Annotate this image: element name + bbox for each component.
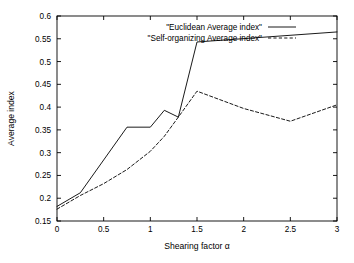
x-axis-title: Shearing factor α xyxy=(164,241,230,251)
line-chart: 00.511.522.53 0.150.20.250.30.350.40.450… xyxy=(0,0,354,263)
y-tick-label: 0.45 xyxy=(35,80,51,89)
plot-border xyxy=(57,16,337,221)
chart-legend: "Euclidean Average index""Self-organizin… xyxy=(148,23,296,43)
plot-frame xyxy=(57,16,337,221)
x-tick-label: 3 xyxy=(335,225,340,234)
x-tick-label: 1 xyxy=(148,225,153,234)
y-tick-label: 0.5 xyxy=(40,58,52,67)
y-axis-title: Average index xyxy=(6,90,16,145)
y-tick-label: 0.6 xyxy=(40,12,52,21)
x-tick-label: 0 xyxy=(55,225,60,234)
x-tick-label: 1.5 xyxy=(191,225,203,234)
y-tick-label: 0.35 xyxy=(35,126,51,135)
legend-label-0: "Euclidean Average index" xyxy=(166,23,262,32)
y-tick-label: 0.3 xyxy=(40,149,52,158)
x-tick-label: 2.5 xyxy=(285,225,297,234)
y-tick-label: 0.55 xyxy=(35,35,51,44)
data-series-group xyxy=(57,32,337,209)
y-tick-label: 0.15 xyxy=(35,217,51,226)
x-tick-label: 0.5 xyxy=(98,225,110,234)
y-tick-label: 0.25 xyxy=(35,171,51,180)
x-axis-ticks: 00.511.522.53 xyxy=(55,16,340,234)
series-line-1 xyxy=(57,91,337,209)
chart-container: 00.511.522.53 0.150.20.250.30.350.40.450… xyxy=(0,0,354,263)
y-axis-ticks: 0.150.20.250.30.350.40.450.50.550.6 xyxy=(35,12,337,226)
y-tick-label: 0.4 xyxy=(40,103,52,112)
y-tick-label: 0.2 xyxy=(40,194,52,203)
x-tick-label: 2 xyxy=(241,225,246,234)
legend-label-1: "Self-organizing Average index" xyxy=(148,34,263,43)
